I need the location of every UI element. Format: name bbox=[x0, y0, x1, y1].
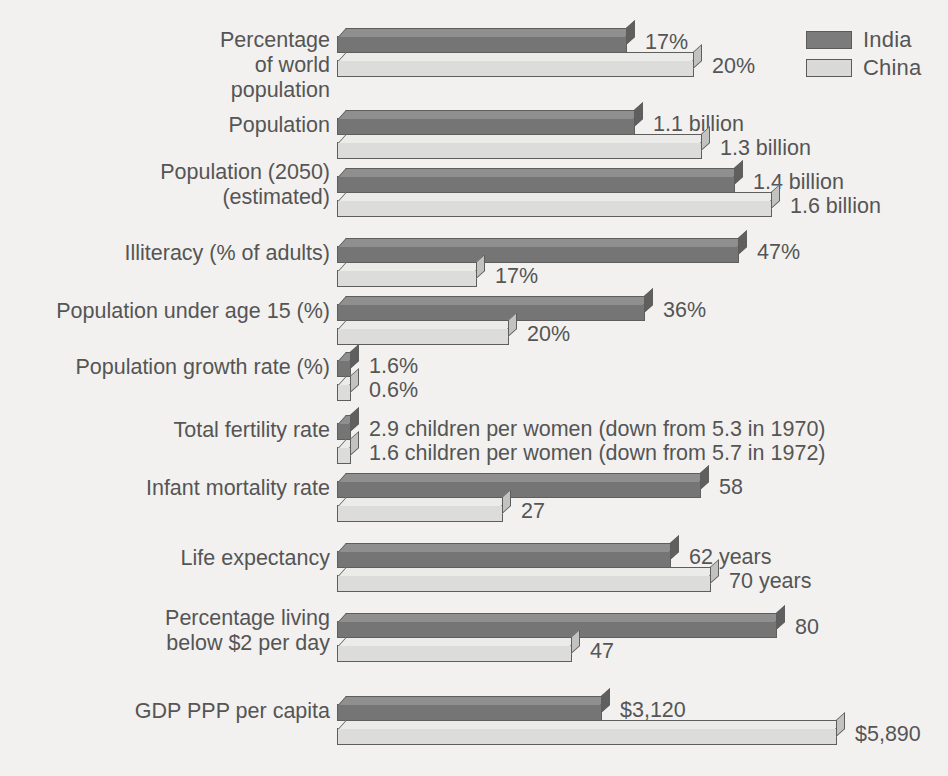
bar-top-face bbox=[338, 238, 746, 247]
bar-value-label: 1.6 billion bbox=[790, 195, 881, 217]
bar-end-cap bbox=[700, 465, 709, 490]
bar-top-face bbox=[338, 52, 701, 61]
bar-china[interactable] bbox=[337, 384, 351, 401]
bar-end-cap bbox=[836, 712, 845, 737]
bar-top-face bbox=[338, 28, 634, 37]
bar-value-label: 1.3 billion bbox=[720, 137, 811, 159]
bar-india[interactable] bbox=[337, 704, 602, 721]
bar-top-face bbox=[338, 543, 678, 552]
bar-value-label: $3,120 bbox=[620, 699, 686, 721]
row-category-label: Population (2050) (estimated) bbox=[0, 160, 330, 210]
row-category-label: Illiteracy (% of adults) bbox=[0, 241, 330, 266]
bar-value-label: 47% bbox=[757, 241, 800, 263]
bar-top-face bbox=[338, 637, 579, 646]
bar-india[interactable] bbox=[337, 621, 777, 638]
legend-item-china: China bbox=[806, 57, 921, 79]
row-category-label: Percentage living below $2 per day bbox=[0, 606, 330, 656]
bar-value-label: 27 bbox=[521, 500, 545, 522]
bar-india[interactable] bbox=[337, 423, 351, 440]
bar-india[interactable] bbox=[337, 481, 701, 498]
legend-item-india: India bbox=[806, 29, 921, 51]
bar-value-label: 80 bbox=[795, 616, 819, 638]
bar-value-label: 58 bbox=[719, 476, 743, 498]
bar-value-label: 17% bbox=[495, 265, 538, 287]
bar-value-label: 20% bbox=[527, 323, 570, 345]
bar-value-label: 1.6% bbox=[369, 355, 418, 377]
bar-value-label: 70 years bbox=[729, 570, 811, 592]
bar-value-label: $5,890 bbox=[855, 723, 921, 745]
bar-end-cap bbox=[670, 535, 679, 560]
bar-end-cap bbox=[350, 368, 359, 393]
bar-value-label: 62 years bbox=[689, 546, 771, 568]
bar-india[interactable] bbox=[337, 246, 739, 263]
bar-value-label: 17% bbox=[645, 31, 688, 53]
bar-india[interactable] bbox=[337, 118, 635, 135]
bar-end-cap bbox=[693, 44, 702, 69]
row-category-label: Population bbox=[0, 113, 330, 138]
row-category-label: Population under age 15 (%) bbox=[0, 299, 330, 324]
bar-end-cap bbox=[644, 288, 653, 313]
row-category-label: Population growth rate (%) bbox=[0, 355, 330, 380]
bar-end-cap bbox=[626, 20, 635, 45]
bar-value-label: 0.6% bbox=[369, 379, 418, 401]
bar-value-label: 47 bbox=[590, 640, 614, 662]
row-category-label: Life expectancy bbox=[0, 546, 330, 571]
bar-end-cap bbox=[350, 431, 359, 456]
bar-india[interactable] bbox=[337, 551, 671, 568]
bar-china[interactable] bbox=[337, 142, 702, 159]
legend-label-china: China bbox=[863, 57, 921, 79]
comparison-bar-chart: India China Percentage of world populati… bbox=[0, 0, 948, 776]
bar-top-face bbox=[338, 192, 779, 201]
row-category-label: Percentage of world population bbox=[0, 28, 330, 103]
bar-china[interactable] bbox=[337, 447, 351, 464]
bar-top-face bbox=[338, 262, 484, 271]
bar-china[interactable] bbox=[337, 728, 837, 745]
bar-top-face bbox=[338, 696, 609, 705]
bar-top-face bbox=[338, 168, 742, 177]
bar-china[interactable] bbox=[337, 270, 477, 287]
legend-swatch-india bbox=[806, 31, 852, 49]
chart-legend: India China bbox=[806, 29, 921, 79]
row-category-label: Infant mortality rate bbox=[0, 476, 330, 501]
bar-china[interactable] bbox=[337, 328, 509, 345]
bar-top-face bbox=[338, 134, 709, 143]
bar-india[interactable] bbox=[337, 304, 645, 321]
bar-china[interactable] bbox=[337, 645, 572, 662]
bar-china[interactable] bbox=[337, 60, 694, 77]
bar-top-face bbox=[338, 567, 718, 576]
legend-label-india: India bbox=[863, 29, 912, 51]
bar-top-face bbox=[338, 320, 516, 329]
bar-top-face bbox=[338, 473, 708, 482]
bar-end-cap bbox=[734, 160, 743, 185]
bar-end-cap bbox=[634, 102, 643, 127]
bar-china[interactable] bbox=[337, 575, 711, 592]
bar-india[interactable] bbox=[337, 36, 627, 53]
bar-end-cap bbox=[776, 605, 785, 630]
bar-end-cap bbox=[738, 230, 747, 255]
bar-top-face bbox=[338, 720, 844, 729]
bar-top-face bbox=[338, 110, 642, 119]
bar-india[interactable] bbox=[337, 360, 351, 377]
bar-value-label: 1.6 children per women (down from 5.7 in… bbox=[369, 442, 826, 464]
row-category-label: Total fertility rate bbox=[0, 418, 330, 443]
row-category-label: GDP PPP per capita bbox=[0, 699, 330, 724]
bar-end-cap bbox=[350, 344, 359, 369]
bar-top-face bbox=[338, 296, 652, 305]
bar-value-label: 1.1 billion bbox=[653, 113, 744, 135]
bar-value-label: 2.9 children per women (down from 5.3 in… bbox=[369, 418, 826, 440]
bar-end-cap bbox=[601, 688, 610, 713]
bar-value-label: 36% bbox=[663, 299, 706, 321]
bar-china[interactable] bbox=[337, 200, 772, 217]
bar-china[interactable] bbox=[337, 505, 503, 522]
bar-value-label: 1.4 billion bbox=[753, 171, 844, 193]
legend-swatch-china bbox=[806, 59, 852, 77]
bar-india[interactable] bbox=[337, 176, 735, 193]
bar-value-label: 20% bbox=[712, 55, 755, 77]
bar-top-face bbox=[338, 497, 510, 506]
bar-top-face bbox=[338, 613, 784, 622]
bar-end-cap bbox=[350, 407, 359, 432]
